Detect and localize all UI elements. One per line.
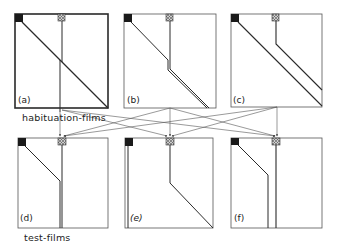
start-marker-icon: [124, 14, 132, 22]
diagram-svg: [0, 0, 337, 249]
start-marker-icon: [18, 138, 26, 146]
object-marker-icon: [58, 138, 66, 145]
panel-c: [231, 14, 322, 107]
panel-label-f: (f): [234, 214, 244, 223]
panel-label-d: (d): [20, 214, 33, 223]
test-films-caption: test-films: [24, 233, 71, 243]
habituation-films-caption: habituation-films: [22, 113, 106, 123]
start-marker-icon: [231, 14, 239, 22]
panel-b: [124, 14, 216, 108]
panel-label-c: (c): [233, 96, 245, 105]
figure: (a) (b) (c) (d) (e) (f) habituation-film…: [0, 0, 337, 249]
object-marker-icon: [272, 14, 279, 21]
object-marker-icon: [166, 14, 173, 21]
object-marker-icon: [58, 14, 65, 21]
start-marker-icon: [125, 138, 133, 146]
object-marker-icon: [166, 138, 174, 145]
start-marker-icon: [231, 138, 239, 145]
panel-f: [231, 138, 322, 228]
start-marker-icon: [15, 14, 23, 22]
object-marker-icon: [272, 138, 280, 145]
panel-label-a: (a): [18, 96, 31, 105]
panel-label-e: (e): [130, 214, 143, 223]
panel-label-b: (b): [127, 96, 140, 105]
